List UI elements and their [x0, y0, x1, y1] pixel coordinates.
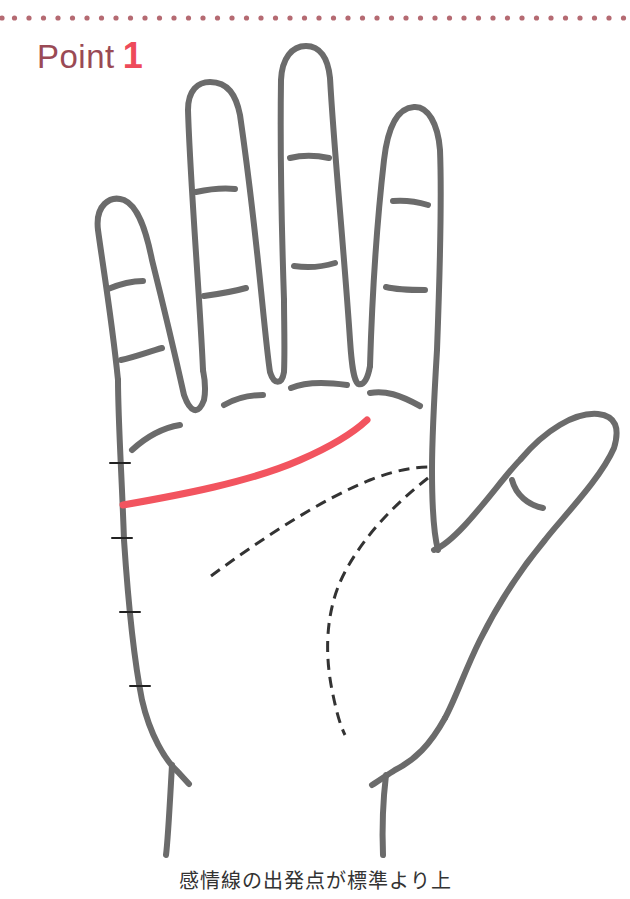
- life-line-dashed: [328, 478, 428, 735]
- palm-diagram: [0, 0, 630, 899]
- measurement-tick-marks: [110, 463, 150, 686]
- hand-outline: [98, 46, 617, 855]
- diagram-caption: 感情線の出発点が標準より上: [0, 868, 630, 894]
- head-line-dashed: [211, 467, 430, 576]
